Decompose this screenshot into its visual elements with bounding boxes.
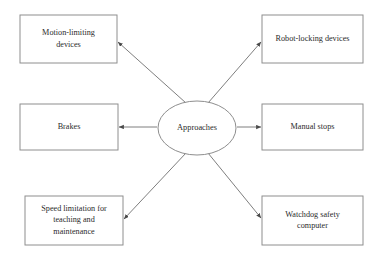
node-label-speed-limitation-for-teaching-and-maintenance: Speed limitation for (41, 204, 107, 213)
center-node-layer: Approaches (158, 101, 236, 155)
node-label-manual-stops: Manual stops (291, 122, 335, 131)
node-robot-locking-devices[interactable]: Robot-locking devices (262, 15, 363, 63)
diagram-svg: Motion-limitingdevicesRobot-locking devi… (0, 0, 384, 258)
node-speed-limitation-for-teaching-and-maintenance[interactable]: Speed limitation forteaching andmaintena… (25, 196, 123, 245)
connector-approaches-to-watchdog-safety-computer (208, 153, 261, 218)
node-label-watchdog-safety-computer: Watchdog safety (285, 210, 340, 219)
connector-approaches-to-robot-locking-devices (208, 42, 261, 103)
center-label: Approaches (177, 123, 217, 132)
connector-approaches-to-speed-limitation (124, 153, 186, 219)
node-label-motion-limiting-devices: Motion-limiting (42, 28, 95, 37)
node-label-watchdog-safety-computer: computer (297, 221, 328, 230)
node-brakes[interactable]: Brakes (20, 104, 118, 150)
node-label-brakes: Brakes (58, 122, 81, 131)
node-manual-stops[interactable]: Manual stops (262, 104, 363, 150)
node-approaches[interactable]: Approaches (158, 101, 236, 155)
connector-approaches-to-motion-limiting-devices (118, 42, 186, 103)
node-label-speed-limitation-for-teaching-and-maintenance: teaching and (53, 215, 95, 224)
node-motion-limiting-devices[interactable]: Motion-limitingdevices (20, 15, 117, 63)
node-label-speed-limitation-for-teaching-and-maintenance: maintenance (53, 227, 95, 236)
node-label-robot-locking-devices: Robot-locking devices (276, 34, 350, 43)
node-label-motion-limiting-devices: devices (56, 40, 81, 49)
node-watchdog-safety-computer[interactable]: Watchdog safetycomputer (262, 196, 363, 245)
diagram-canvas: Motion-limitingdevicesRobot-locking devi… (0, 0, 384, 258)
